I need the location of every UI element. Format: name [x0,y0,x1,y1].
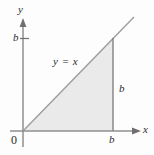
y-axis-tick-label-b: b [13,32,19,43]
vertical-side-label-b: b [119,83,125,94]
y-axis-arrowhead-icon [20,18,27,27]
origin-label: 0 [11,134,17,146]
x-axis-label: x [143,124,148,135]
y-axis-label: y [18,4,23,15]
x-axis-arrowhead-icon [132,128,141,135]
line-equation-label: y = x [53,56,78,67]
x-axis-tick-label-b: b [109,134,115,145]
figure-container: y x 0 b b b y = x [0,0,154,155]
diagram-canvas [0,0,154,155]
